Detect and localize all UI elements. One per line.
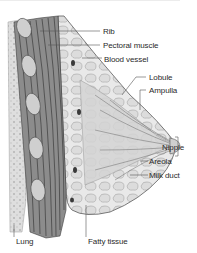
label-fatty-tissue: Fatty tissue bbox=[88, 237, 128, 246]
label-ampulla: Ampulla bbox=[149, 86, 177, 95]
label-rib: Rib bbox=[103, 27, 115, 36]
blood-vessel-shape bbox=[71, 60, 75, 66]
label-areola: Areola bbox=[149, 157, 172, 166]
label-lung: Lung bbox=[16, 237, 33, 246]
label-milk-duct: Milk duct bbox=[149, 171, 180, 180]
label-blood-vessel: Blood vessel bbox=[104, 55, 148, 64]
label-pectoral-muscle: Pectoral muscle bbox=[103, 41, 158, 50]
label-lobule: Lobule bbox=[149, 73, 172, 82]
breast-cross-section-illustration bbox=[0, 0, 197, 253]
label-nipple: Nipple bbox=[162, 143, 184, 152]
